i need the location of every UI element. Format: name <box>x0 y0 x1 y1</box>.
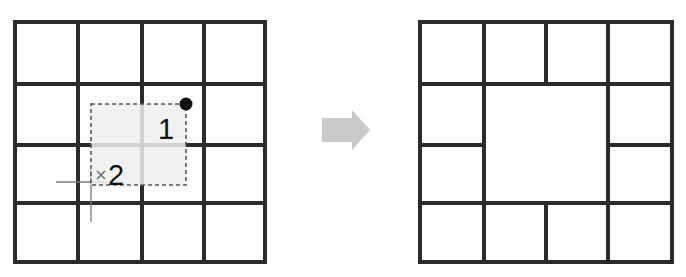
figure-canvas: 1 2 <box>0 0 686 277</box>
after-panel <box>0 0 686 277</box>
after-grid-lines <box>420 22 672 262</box>
merged-cell[interactable] <box>484 84 608 203</box>
